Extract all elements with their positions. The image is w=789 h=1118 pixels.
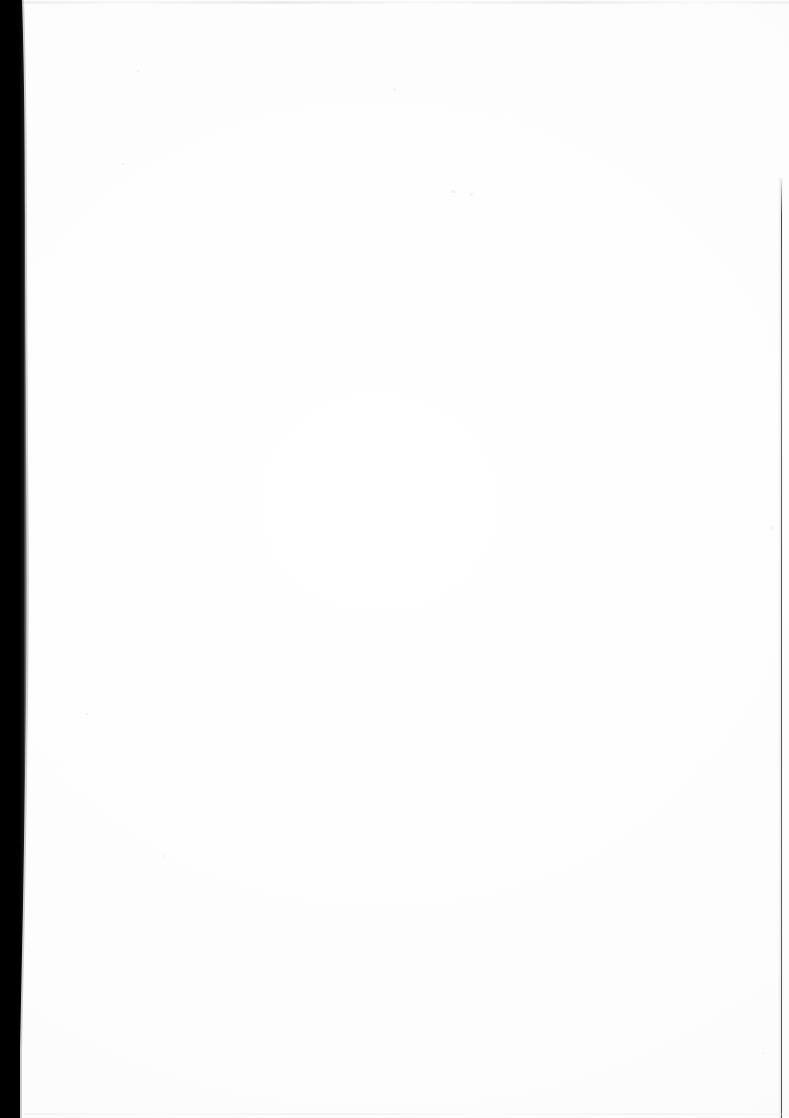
scanned-page (0, 0, 789, 1118)
scan-speck (137, 70, 139, 72)
right-edge-rule (781, 178, 782, 1118)
scan-speck (122, 163, 124, 165)
scan-speck (455, 191, 457, 193)
scan-speck (762, 1052, 764, 1054)
page-content-area (30, 8, 778, 1108)
scan-speck (393, 88, 396, 91)
scan-speck (470, 193, 473, 196)
top-scan-line (22, 1, 789, 4)
left-gutter-shadow (0, 0, 46, 1118)
bottom-scan-line (24, 1113, 789, 1115)
scan-speck (771, 527, 774, 529)
page-text (30, 8, 778, 1108)
scan-speck (163, 855, 165, 857)
scan-speck (86, 713, 88, 715)
